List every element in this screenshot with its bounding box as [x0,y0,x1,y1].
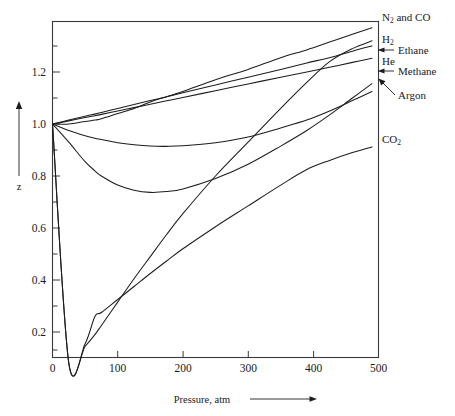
y-tick-label: 0.6 [32,222,47,234]
y-tick-label: 0.8 [32,170,47,182]
plot-frame [53,22,379,358]
x-axis-arrow-icon [310,396,318,401]
series-label-ethane: Ethane [398,44,429,56]
x-tick-label: 300 [240,362,258,374]
series-label-argon: Argon [398,89,426,101]
curve-n2-and-co [53,28,372,124]
x-tick-label: 200 [174,362,192,374]
series-label-methane: Methane [398,65,437,77]
x-axis-label-group: Pressure, atm [174,394,317,405]
curve-methane [53,84,372,193]
y-tick-label: 1.2 [32,66,47,78]
y-tick-labels: 1.2 1.0 0.8 0.6 0.4 0.2 [32,66,47,338]
y-axis-label: z [17,181,22,192]
y-tick-label: 0.4 [32,274,47,286]
compressibility-chart: 0 100 200 300 400 500 1.2 1.0 0.8 0.6 0.… [0,0,455,416]
y-axis-label-group: z [16,101,22,192]
chart-canvas: 0 100 200 300 400 500 1.2 1.0 0.8 0.6 0.… [0,0,455,416]
x-tick-labels: 0 100 200 300 400 500 [50,362,388,374]
y-tick-label: 0.2 [32,326,47,338]
x-tick-label: 0 [50,362,56,374]
series-label-he: He [382,55,395,67]
series-label-h2: H2 [382,33,394,47]
curve-co2 [53,124,372,376]
curve-h2 [53,46,372,124]
x-axis-ticks [53,351,379,358]
curve-he [53,58,372,124]
x-tick-label: 500 [370,362,388,374]
y-axis-ticks [53,46,61,350]
series-curves [53,28,372,376]
x-axis-label: Pressure, atm [174,394,231,405]
x-tick-label: 400 [305,362,323,374]
series-label-co2: CO2 [382,133,401,147]
series-labels: N2 and CO H2 Ethane He Methane Argon CO2 [382,11,437,147]
x-tick-label: 100 [109,362,127,374]
y-tick-label: 1.0 [32,118,47,130]
series-label-n2-and-co: N2 and CO [382,11,430,25]
y-axis-arrow-icon [16,101,22,109]
